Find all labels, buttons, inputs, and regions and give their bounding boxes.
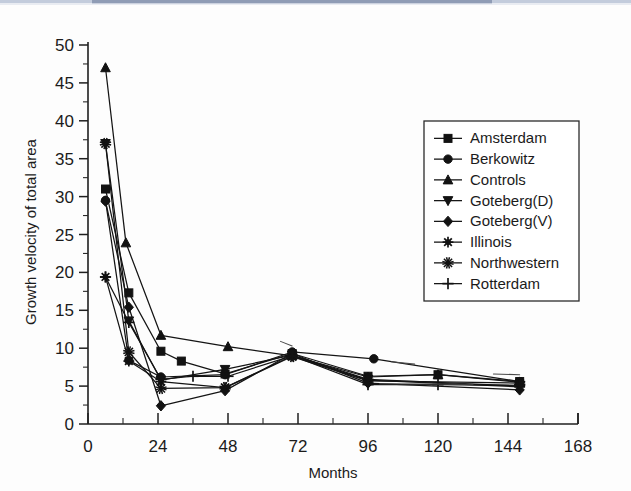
legend-label: Berkowitz bbox=[470, 150, 535, 167]
marker-square bbox=[157, 347, 165, 355]
y-tick-label-20: 20 bbox=[55, 263, 74, 282]
marker-circle bbox=[444, 155, 452, 163]
y-tick-label-15: 15 bbox=[55, 301, 74, 320]
x-axis-title: Months bbox=[308, 464, 357, 481]
marker-plus bbox=[187, 371, 198, 382]
y-tick-label-40: 40 bbox=[55, 112, 74, 131]
legend-label: Rotterdam bbox=[470, 275, 540, 292]
marker-triangle-up bbox=[121, 238, 131, 247]
x-tick-label-0: 0 bbox=[83, 437, 92, 456]
scan-artifact-band-light bbox=[0, 3, 631, 5]
legend-label: Illinois bbox=[470, 233, 512, 250]
line-chart: Growth velocity of total area Months 051… bbox=[0, 0, 631, 491]
x-tick-label-72: 72 bbox=[289, 437, 308, 456]
marker-square bbox=[102, 185, 110, 193]
y-tick-label-50: 50 bbox=[55, 36, 74, 55]
x-tick-label-168: 168 bbox=[564, 437, 592, 456]
marker-plus bbox=[100, 271, 111, 282]
legend-label: Northwestern bbox=[470, 254, 559, 271]
marker-diamond bbox=[156, 401, 165, 411]
marker-star8 bbox=[123, 356, 134, 367]
y-tick-label-45: 45 bbox=[55, 74, 74, 93]
marker-star8 bbox=[443, 237, 454, 248]
marker-square bbox=[444, 134, 452, 142]
y-axis-title: Growth velocity of total area bbox=[22, 138, 39, 325]
chart-legend[interactable]: AmsterdamBerkowitzControlsGoteberg(D)Got… bbox=[424, 121, 579, 301]
legend-label: Goteberg(D) bbox=[470, 192, 553, 209]
y-tick-label-5: 5 bbox=[65, 377, 74, 396]
x-tick-label-96: 96 bbox=[359, 437, 378, 456]
marker-diamond bbox=[124, 302, 133, 312]
legend-label: Controls bbox=[470, 171, 526, 188]
legend-label: Goteberg(V) bbox=[470, 212, 553, 229]
x-tick-label-48: 48 bbox=[219, 437, 238, 456]
y-tick-label-30: 30 bbox=[55, 188, 74, 207]
legend-label: Amsterdam bbox=[470, 129, 547, 146]
marker-triangle-up bbox=[156, 330, 166, 339]
x-tick-label-120: 120 bbox=[424, 437, 452, 456]
marker-square bbox=[177, 357, 185, 365]
y-tick-label-10: 10 bbox=[55, 339, 74, 358]
marker-circle bbox=[370, 355, 378, 363]
x-tick-label-144: 144 bbox=[494, 437, 522, 456]
x-axis: 024487296120144168 bbox=[83, 413, 592, 456]
y-tick-label-0: 0 bbox=[65, 415, 74, 434]
figure-canvas: Growth velocity of total area Months 051… bbox=[0, 0, 631, 491]
marker-triangle-up bbox=[101, 63, 111, 72]
y-tick-label-25: 25 bbox=[55, 226, 74, 245]
x-tick-label-24: 24 bbox=[149, 437, 168, 456]
y-axis: 05101520253035404550 bbox=[55, 36, 88, 434]
y-tick-label-35: 35 bbox=[55, 150, 74, 169]
